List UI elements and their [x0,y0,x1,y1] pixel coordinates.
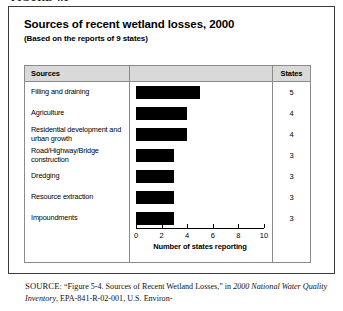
chart-column: 0246810Number of states reporting [130,82,273,262]
table-row: Residential development and urban growth [25,124,129,145]
bar-track-1 [130,103,272,124]
table-row: Agriculture [25,103,129,124]
source-note-text-2: , EPA-841-R-02-001, U.S. Environ- [56,294,172,303]
chart-subtitle: (Based on the reports of 9 states) [24,34,148,43]
states-value-0: 5 [289,88,293,97]
table-row: Resource extraction [25,187,129,208]
source-note: SOURCE: “Figure 5-4. Sources of Recent W… [25,281,337,304]
column-header-chart [130,66,273,81]
x-axis-tick-0 [136,224,137,228]
source-label-5: Resource extraction [31,193,93,201]
wetland-losses-table: Sources States Filling and draining Agri… [24,65,311,263]
states-cell-0: 5 [273,82,310,103]
column-header-states-label: States [281,69,303,78]
bar-2 [136,128,187,141]
x-axis-tick-2 [187,224,188,228]
table-row: Dredging [25,166,129,187]
sources-column: Filling and draining Agriculture Residen… [25,82,130,262]
bar-4 [136,170,174,183]
states-cell-3: 3 [273,145,310,166]
states-cell-2: 4 [273,124,310,145]
x-axis-tick-4 [238,224,239,228]
states-value-4: 3 [289,172,293,181]
source-label-1: Agriculture [31,109,64,117]
bar-track-2 [130,124,272,145]
bars-layer [130,82,272,229]
x-axis-tick-5 [264,224,265,228]
states-column: 5 4 4 3 3 3 3 [273,82,310,262]
source-label-0: Filling and draining [31,88,89,96]
chart-title: Sources of recent wetland losses, 2000 [24,18,234,30]
bar-track-3 [130,145,272,166]
x-axis-tick-1 [162,224,163,228]
table-row: Impoundments [25,208,129,229]
states-cell-5: 3 [273,187,310,208]
figure-frame: Sources of recent wetland losses, 2000 (… [8,6,335,274]
source-label-6: Impoundments [31,214,77,222]
states-value-5: 3 [289,193,293,202]
bar-chart-plot-area: 0246810Number of states reporting [130,82,272,229]
bar-1 [136,107,187,120]
figure-caption: FIGURE 4.1 [11,0,69,1]
bar-track-5 [130,187,272,208]
bar-track-4 [130,166,272,187]
source-label-4: Dredging [31,172,59,180]
states-value-3: 3 [289,151,293,160]
source-note-text-1: “Figure 5-4. Sources of Recent Wetland L… [62,282,233,291]
source-note-label: SOURCE: [25,281,62,291]
bar-track-0 [130,82,272,103]
column-header-sources: Sources [25,66,130,81]
bar-5 [136,191,174,204]
states-value-2: 4 [289,130,293,139]
states-cell-1: 4 [273,103,310,124]
table-body: Filling and draining Agriculture Residen… [25,82,310,262]
states-cell-6: 3 [273,208,310,229]
bar-track-6 [130,208,272,229]
states-value-1: 4 [289,109,293,118]
source-label-2: Residential development and urban growth [31,126,127,143]
bar-0 [136,86,200,99]
table-row: Road/Highway/Bridge construction [25,145,129,166]
bar-3 [136,149,174,162]
source-label-3: Road/Highway/Bridge construction [31,147,127,164]
bar-6 [136,212,174,225]
x-axis-tick-3 [213,224,214,228]
table-header-row: Sources States [25,66,310,82]
table-row: Filling and draining [25,82,129,103]
column-header-sources-label: Sources [31,69,60,78]
states-value-6: 3 [289,214,293,223]
x-axis-zone [130,229,272,262]
column-header-states: States [273,66,310,81]
states-cell-4: 3 [273,166,310,187]
